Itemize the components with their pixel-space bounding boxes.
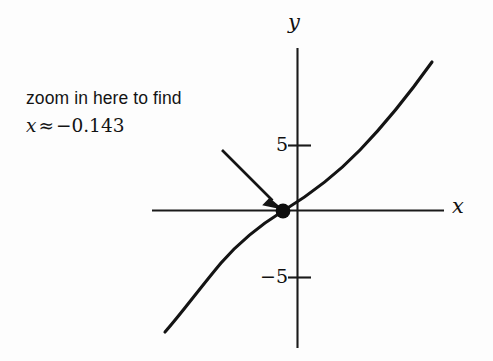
figure-canvas: zoom in here to find x≈−0.143 y x 5 −5 bbox=[0, 0, 493, 361]
y-axis-label: y bbox=[288, 10, 300, 34]
callout-annotation: zoom in here to find x≈−0.143 bbox=[26, 88, 276, 137]
approx-equals-symbol: ≈ bbox=[36, 115, 56, 136]
callout-annotation-line2: x≈−0.143 bbox=[26, 114, 276, 137]
y-tick-label-5: 5 bbox=[244, 133, 288, 155]
callout-value: −0.143 bbox=[56, 115, 124, 136]
callout-annotation-line1: zoom in here to find bbox=[26, 88, 276, 110]
x-axis-label: x bbox=[452, 194, 464, 218]
callout-arrow bbox=[222, 150, 279, 208]
callout-variable-x: x bbox=[26, 115, 36, 136]
graph-svg bbox=[0, 0, 493, 361]
root-point-marker bbox=[276, 204, 291, 219]
y-tick-label-minus-5: −5 bbox=[232, 265, 288, 287]
